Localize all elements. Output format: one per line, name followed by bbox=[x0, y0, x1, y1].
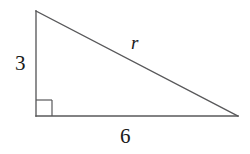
vertical-leg-length-label: 3 bbox=[15, 53, 26, 74]
horizontal-leg-length-label: 6 bbox=[120, 126, 131, 147]
triangle-side-hypotenuse bbox=[36, 11, 238, 116]
triangle-outline-group bbox=[36, 11, 238, 116]
hypotenuse-length-label: r bbox=[131, 33, 138, 52]
figure-canvas: 3 6 r bbox=[0, 0, 250, 154]
right-angle-marker-icon bbox=[36, 100, 52, 116]
